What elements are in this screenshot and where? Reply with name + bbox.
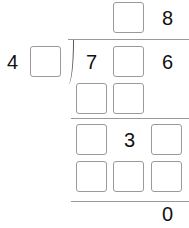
remainder: 0 — [151, 198, 184, 228]
division-bracket — [63, 40, 74, 84]
divisor-digit-2-box[interactable] — [30, 46, 61, 77]
diff1-digit-1-box[interactable] — [76, 124, 107, 155]
product1-digit-1-box[interactable] — [76, 83, 107, 114]
quotient-digit-2: 8 — [151, 2, 184, 35]
product2-digit-1-box[interactable] — [76, 161, 107, 192]
diff1-digit-2: 3 — [113, 124, 146, 157]
dividend-digit-2-box[interactable] — [113, 46, 144, 77]
dividend-digit-3: 6 — [151, 46, 184, 79]
product2-digit-2-box[interactable] — [113, 161, 144, 192]
diff1-digit-3-box[interactable] — [151, 124, 182, 155]
product1-digit-2-box[interactable] — [113, 83, 144, 114]
product2-digit-3-box[interactable] — [151, 161, 182, 192]
quotient-digit-1-box[interactable] — [113, 2, 144, 33]
subtraction-line-1 — [71, 118, 189, 119]
divisor-digit-1: 4 — [0, 46, 29, 79]
dividend-digit-1: 7 — [75, 46, 108, 79]
division-bar — [68, 39, 189, 40]
